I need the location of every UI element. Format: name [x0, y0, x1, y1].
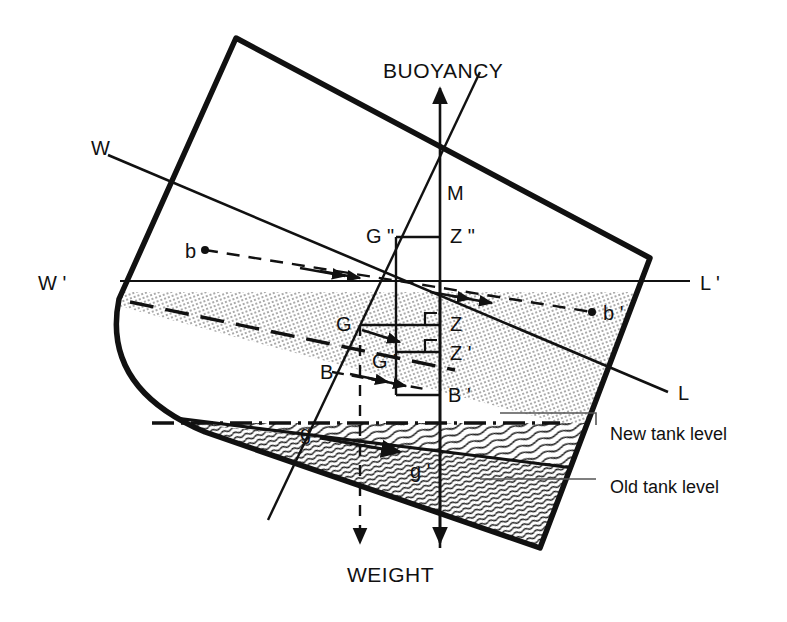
waterline-w-prime-label: W ' [38, 272, 66, 294]
waterline-l-label: L [678, 382, 689, 404]
point-b-prime-label: b ' [603, 302, 624, 324]
weight-label: WEIGHT [347, 563, 434, 586]
metacenter-label: M [447, 182, 464, 204]
point-g-prime-label: G ' [372, 350, 397, 372]
point-g-label: G [336, 313, 352, 335]
point-g-small-label: g [300, 422, 311, 444]
point-g-double-prime-label: G " [366, 225, 394, 247]
diagram-canvas: BUOYANCY WEIGHT W L W ' L ' M b b ' G " … [0, 0, 787, 622]
point-b-prime [588, 308, 596, 316]
point-B-prime-label: B ' [448, 384, 471, 406]
point-B-label: B [320, 361, 333, 383]
new-tank-level-annotation: New tank level [610, 424, 727, 444]
point-z-prime-label: Z ' [450, 342, 472, 364]
waterline-w-label: W [91, 137, 110, 159]
point-b-label: b [185, 240, 196, 262]
ship-stability-diagram: BUOYANCY WEIGHT W L W ' L ' M b b ' G " … [0, 0, 787, 622]
point-b [201, 246, 209, 254]
buoyancy-label: BUOYANCY [383, 59, 503, 82]
point-z-label: Z [450, 313, 462, 335]
point-g-small-prime-label: g ' [410, 460, 431, 482]
old-tank-level-annotation: Old tank level [610, 477, 719, 497]
point-z-double-prime-label: Z " [450, 225, 475, 247]
waterline-l-prime-label: L ' [700, 272, 720, 294]
